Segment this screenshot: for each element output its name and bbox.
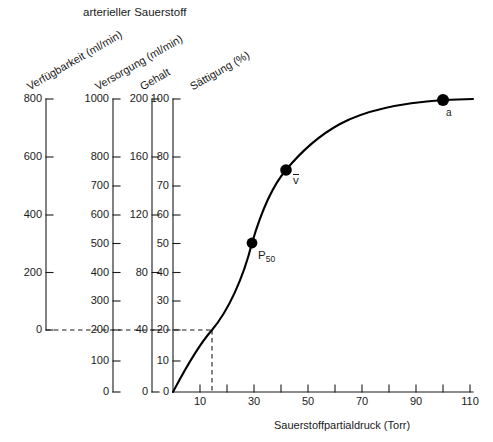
point-label-p50: P50 <box>258 250 275 264</box>
dissociation-curve <box>173 99 473 392</box>
tick-x-70: 70 <box>342 396 382 407</box>
chart-title: arterieller Sauerstoff <box>83 7 186 19</box>
tick-verfuegbarkeit-0: 0 <box>2 324 42 335</box>
tick-versorgung-200: 200 <box>64 324 109 335</box>
tick-versorgung-800: 800 <box>64 151 109 162</box>
tick-saettigung-60: 60 <box>134 209 169 220</box>
axis-verfuegbarkeit <box>46 99 53 330</box>
tick-saettigung-40: 40 <box>134 267 169 278</box>
data-point-venous <box>280 164 292 176</box>
tick-saettigung-100: 100 <box>134 93 169 104</box>
tick-x-90: 90 <box>396 396 436 407</box>
axis-x-pressure <box>173 385 473 392</box>
tick-versorgung-100: 100 <box>64 355 109 366</box>
tick-saettigung-80: 80 <box>134 151 169 162</box>
tick-saettigung-20: 20 <box>134 324 169 335</box>
tick-x-30: 30 <box>234 396 274 407</box>
tick-verfuegbarkeit-400: 400 <box>2 209 42 220</box>
tick-x-50: 50 <box>288 396 328 407</box>
point-label-arterial: a <box>446 108 452 118</box>
tick-saettigung-30: 30 <box>134 295 169 306</box>
oxygen-dissociation-figure: arterieller Sauerstoff Verfügbarkeit (ml… <box>0 0 493 442</box>
venous-overbar-symbol: v <box>293 175 299 187</box>
tick-saettigung-70: 70 <box>134 180 169 191</box>
data-point-p50 <box>247 238 258 249</box>
data-point-arterial <box>437 94 449 106</box>
tick-versorgung-600: 600 <box>64 209 109 220</box>
tick-x-110: 110 <box>450 396 490 407</box>
tick-versorgung-300: 300 <box>64 295 109 306</box>
tick-versorgung-1000: 1000 <box>64 93 109 104</box>
p50-subscript: 50 <box>266 254 275 264</box>
tick-verfuegbarkeit-800: 800 <box>2 93 42 104</box>
axis-saettigung <box>173 99 180 392</box>
axis-versorgung <box>113 99 120 392</box>
point-label-venous: v <box>293 175 299 187</box>
tick-saettigung-50: 50 <box>134 238 169 249</box>
tick-x-10: 10 <box>180 396 220 407</box>
tick-saettigung-10: 10 <box>134 355 169 366</box>
tick-versorgung-400: 400 <box>64 267 109 278</box>
tick-versorgung-700: 700 <box>64 180 109 191</box>
tick-verfuegbarkeit-600: 600 <box>2 151 42 162</box>
p50-prefix: P <box>258 249 266 261</box>
tick-saettigung-0: 0 <box>134 386 169 397</box>
tick-verfuegbarkeit-200: 200 <box>2 267 42 278</box>
tick-versorgung-500: 500 <box>64 238 109 249</box>
tick-versorgung-0: 0 <box>64 386 109 397</box>
axis-label-x-pressure: Sauerstoffpartialdruck (Torr) <box>274 420 410 431</box>
